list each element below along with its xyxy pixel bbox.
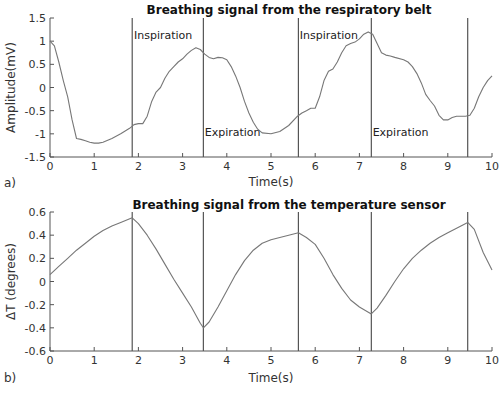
chart-title: Breathing signal from the temperature se… — [132, 198, 445, 212]
x-tick-label: 6 — [312, 160, 319, 173]
y-tick-label: 0.5 — [29, 58, 47, 71]
x-axis-label: Time(s) — [248, 175, 294, 189]
x-tick-label: 5 — [268, 160, 275, 173]
signal-line — [50, 218, 492, 328]
y-tick-label: -0.2 — [25, 299, 46, 312]
y-tick-label: 0 — [39, 276, 46, 289]
y-tick-label: -1.5 — [25, 151, 46, 164]
x-tick-label: 4 — [223, 354, 230, 367]
panel-label: a) — [4, 176, 16, 190]
phase-annotation: Inspiration — [300, 29, 358, 42]
x-tick-label: 2 — [135, 160, 142, 173]
x-tick-label: 1 — [91, 160, 98, 173]
x-tick-label: 7 — [356, 160, 363, 173]
x-axis-label: Time(s) — [248, 371, 294, 385]
panel-label: b) — [4, 371, 16, 385]
phase-annotation: Inspiration — [134, 29, 192, 42]
x-tick-label: 2 — [135, 354, 142, 367]
x-tick-label: 1 — [91, 354, 98, 367]
phase-annotation: Expiration — [373, 126, 429, 139]
y-tick-label: -0.4 — [25, 322, 46, 335]
x-tick-label: 9 — [444, 160, 451, 173]
y-tick-label: -0.5 — [25, 105, 46, 118]
y-tick-label: 1 — [39, 35, 46, 48]
x-tick-label: 6 — [312, 354, 319, 367]
x-tick-label: 0 — [47, 160, 54, 173]
y-axis-label: ΔT (degrees) — [4, 243, 18, 320]
y-tick-label: -1 — [35, 128, 46, 141]
y-axis-label: Amplitude(mV) — [4, 42, 18, 133]
x-tick-label: 8 — [400, 354, 407, 367]
x-tick-label: 8 — [400, 160, 407, 173]
x-tick-label: 3 — [179, 160, 186, 173]
x-tick-label: 10 — [485, 354, 499, 367]
y-tick-label: -0.6 — [25, 345, 46, 358]
figure: 0123456789101.510.50-0.5-1-1.5Inspiratio… — [0, 0, 503, 393]
chart-title: Breathing signal from the respiratory be… — [147, 3, 432, 17]
x-tick-label: 9 — [444, 354, 451, 367]
y-tick-label: 0 — [39, 82, 46, 95]
x-tick-label: 7 — [356, 354, 363, 367]
x-tick-label: 5 — [268, 354, 275, 367]
y-tick-label: 0.2 — [29, 252, 47, 265]
phase-annotation: Expiration — [205, 126, 261, 139]
x-tick-label: 0 — [47, 354, 54, 367]
y-tick-label: 0.6 — [29, 206, 47, 219]
x-tick-label: 3 — [179, 354, 186, 367]
y-tick-label: 0.4 — [29, 229, 47, 242]
x-tick-label: 4 — [223, 160, 230, 173]
x-tick-label: 10 — [485, 160, 499, 173]
y-tick-label: 1.5 — [29, 12, 47, 25]
